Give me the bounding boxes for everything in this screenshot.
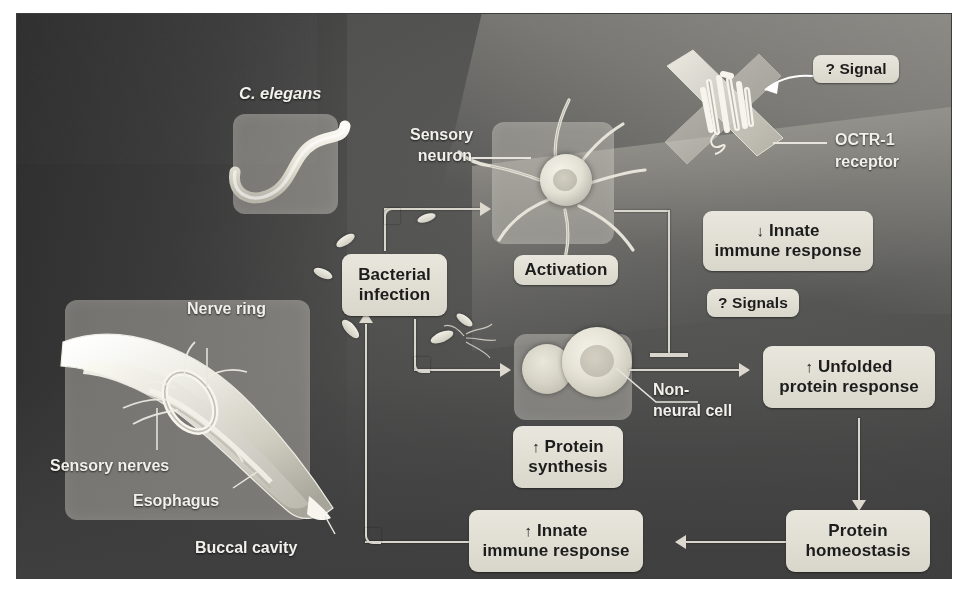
non-neural-cell-nucleus xyxy=(580,345,614,377)
node-innate-down-line2: immune response xyxy=(715,241,862,261)
edge-upr-to-homeostasis xyxy=(858,418,860,502)
non-neural-cell-label-line2: neural cell xyxy=(653,402,732,420)
node-innate-up-line1: ↑ Innate xyxy=(524,521,587,541)
sensory-neuron-leader-line xyxy=(469,157,531,159)
node-protein-homeostasis-line1: Protein xyxy=(828,521,887,541)
arrowhead-to-upr xyxy=(739,363,750,377)
inhibition-t-bar xyxy=(650,353,688,357)
edge-feedback-vertical xyxy=(365,324,367,534)
figure-canvas: C. elegans xyxy=(17,14,951,578)
edge-corner xyxy=(414,357,430,373)
nerve-ring-label: Nerve ring xyxy=(187,300,266,318)
up-arrow-icon: ↑ xyxy=(806,358,814,375)
node-bacterial-infection-line1: Bacterial xyxy=(358,265,431,285)
sensory-nerves-label: Sensory nerves xyxy=(50,457,169,475)
edge-cells-to-upr xyxy=(629,369,744,371)
node-innate-immune-response-up[interactable]: ↑ Innate immune response xyxy=(469,510,643,572)
node-unfolded-protein-response[interactable]: ↑ Unfolded protein response xyxy=(763,346,935,408)
node-signal-question-label: ? Signal xyxy=(825,60,886,78)
node-upr-line2: protein response xyxy=(779,377,919,397)
octr1-label-line2: receptor xyxy=(835,153,899,171)
bacteria-flagella-icon xyxy=(442,314,512,364)
node-bacterial-infection[interactable]: Bacterial infection xyxy=(342,254,447,316)
up-arrow-icon: ↑ xyxy=(524,522,532,539)
node-innate-immune-response-down[interactable]: ↓ Innate immune response xyxy=(703,211,873,271)
node-innate-up-text1: Innate xyxy=(537,521,588,540)
node-upr-text1: Unfolded xyxy=(818,357,892,376)
node-bacterial-infection-line2: infection xyxy=(359,285,431,305)
up-arrow-icon: ↑ xyxy=(532,438,540,455)
neuron-nucleus xyxy=(553,169,577,191)
c-elegans-label: C. elegans xyxy=(239,84,322,103)
down-arrow-icon: ↓ xyxy=(756,222,764,239)
node-innate-down-text1: Innate xyxy=(769,221,820,240)
node-signals-question-label: ? Signals xyxy=(718,294,788,312)
node-protein-synthesis-line2: synthesis xyxy=(528,457,607,477)
node-signal-question[interactable]: ? Signal xyxy=(813,55,899,83)
buccal-cavity-label: Buccal cavity xyxy=(195,539,297,557)
arrowhead-to-innate-up xyxy=(675,535,686,549)
edge-activation-inhibition-horizontal xyxy=(614,210,670,212)
node-signals-question[interactable]: ? Signals xyxy=(707,289,799,317)
sensory-neuron-label-line1: Sensory xyxy=(410,126,472,144)
edge-corner xyxy=(365,528,381,544)
arrowhead-to-non-neural-cell xyxy=(500,363,511,377)
octr1-leader-line xyxy=(773,142,827,144)
edge-activation-inhibition-vertical xyxy=(668,210,670,354)
node-protein-synthesis[interactable]: ↑ Protein synthesis xyxy=(513,426,623,488)
edge-homeostasis-to-innate-up xyxy=(685,541,790,543)
c-elegans-worm-illustration xyxy=(217,110,367,230)
node-protein-homeostasis-line2: homeostasis xyxy=(805,541,910,561)
node-innate-up-line2: immune response xyxy=(483,541,630,561)
sensory-neuron-label-line2: neuron xyxy=(410,147,472,165)
node-upr-line1: ↑ Unfolded xyxy=(806,357,893,377)
non-neural-cell-label-line1: Non- xyxy=(653,381,689,399)
node-protein-homeostasis[interactable]: Protein homeostasis xyxy=(786,510,930,572)
esophagus-label: Esophagus xyxy=(133,492,219,510)
node-activation-label: Activation xyxy=(524,260,607,280)
signal-pointer-arrow xyxy=(717,58,817,106)
node-activation[interactable]: Activation xyxy=(514,255,618,285)
node-innate-down-line1: ↓ Innate xyxy=(756,221,819,241)
edge-corner xyxy=(384,208,400,224)
arrowhead-to-activation xyxy=(480,202,491,216)
node-protein-synthesis-text1: Protein xyxy=(545,437,604,456)
octr1-label-line1: OCTR-1 xyxy=(835,131,895,149)
node-protein-synthesis-line1: ↑ Protein xyxy=(532,437,604,457)
